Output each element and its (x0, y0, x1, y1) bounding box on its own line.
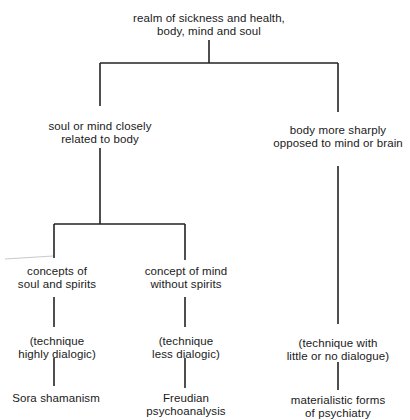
node-materialistic-line-2: of psychiatry (291, 407, 386, 420)
node-root: realm of sickness and health, body, mind… (133, 12, 285, 38)
node-root-line-2: body, mind and soul (133, 25, 285, 38)
node-body-opposed: body more sharply opposed to mind or bra… (273, 124, 403, 150)
node-root-line-1: realm of sickness and health, (133, 12, 285, 25)
node-technique-little-line-2: little or no dialogue) (287, 350, 390, 363)
node-sora: Sora shamanism (12, 392, 100, 405)
node-materialistic-line-1: materialistic forms (291, 394, 386, 407)
node-concepts-soul-spirits: concepts of soul and spirits (18, 265, 96, 291)
node-sora-line-1: Sora shamanism (12, 392, 100, 405)
node-freudian: Freudian psychoanalysis (146, 392, 225, 418)
node-body-opposed-line-1: body more sharply (273, 124, 403, 137)
node-concept-mind-no-spirits: concept of mind without spirits (145, 265, 228, 291)
node-technique-less-line-1: (technique (152, 335, 220, 348)
node-freudian-line-1: Freudian (146, 392, 225, 405)
node-soul-mind-body-line-1: soul or mind closely (49, 120, 152, 133)
node-technique-little-line-1: (technique with (287, 337, 390, 350)
node-technique-highly-line-1: (technique (18, 335, 96, 348)
tree-diagram: realm of sickness and health, body, mind… (0, 0, 410, 420)
stray-mark (5, 256, 53, 259)
node-concepts-soul-spirits-line-2: soul and spirits (18, 278, 96, 291)
node-technique-highly-line-2: highly dialogic) (18, 348, 96, 361)
node-technique-highly: (technique highly dialogic) (18, 335, 96, 361)
node-soul-mind-body: soul or mind closely related to body (49, 120, 152, 146)
node-technique-less: (technique less dialogic) (152, 335, 220, 361)
node-concepts-soul-spirits-line-1: concepts of (18, 265, 96, 278)
node-soul-mind-body-line-2: related to body (49, 133, 152, 146)
node-concept-mind-no-spirits-line-1: concept of mind (145, 265, 228, 278)
node-freudian-line-2: psychoanalysis (146, 405, 225, 418)
node-technique-less-line-2: less dialogic) (152, 348, 220, 361)
node-concept-mind-no-spirits-line-2: without spirits (145, 278, 228, 291)
node-body-opposed-line-2: opposed to mind or brain (273, 137, 403, 150)
node-materialistic: materialistic forms of psychiatry (291, 394, 386, 420)
node-technique-little: (technique with little or no dialogue) (287, 337, 390, 363)
